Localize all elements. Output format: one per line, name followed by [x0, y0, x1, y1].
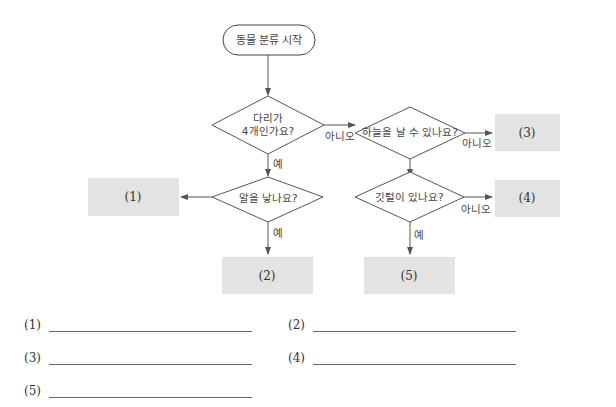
- edge-no-feathers: 아니오: [461, 201, 491, 216]
- edge-yes-legs: 예: [273, 156, 283, 171]
- answer-row-4[interactable]: (4): [288, 351, 516, 365]
- edge-no-fly: 아니오: [462, 135, 492, 150]
- result-box-5-label: (5): [401, 269, 418, 283]
- start-label: 동물 분류 시작: [236, 34, 303, 47]
- result-box-1-label: (1): [125, 190, 142, 204]
- edge-yes-eggs: 예: [273, 225, 283, 240]
- result-box-2-label: (2): [259, 269, 276, 283]
- answer-blank-4[interactable]: [313, 352, 516, 365]
- answer-label-2: (2): [288, 318, 305, 332]
- answer-label-4: (4): [288, 351, 305, 365]
- answer-blank-3[interactable]: [49, 352, 252, 365]
- result-box-3-label: (3): [519, 126, 536, 140]
- decision-legs-label: 다리가 4개인가요?: [242, 112, 294, 138]
- answer-blank-1[interactable]: [49, 319, 252, 332]
- edge-yes-feathers: 예: [414, 227, 424, 242]
- answer-label-5: (5): [24, 384, 41, 398]
- answer-row-5[interactable]: (5): [24, 384, 252, 398]
- answer-blank-5[interactable]: [49, 385, 252, 398]
- answer-label-3: (3): [24, 351, 41, 365]
- answer-blank-2[interactable]: [313, 319, 516, 332]
- answer-row-2[interactable]: (2): [288, 318, 516, 332]
- edge-no-legs: 아니오: [325, 128, 355, 143]
- decision-eggs-label: 알을 낳나요?: [239, 192, 298, 205]
- decision-feathers-label: 깃털이 있나요?: [375, 191, 444, 204]
- answer-row-3[interactable]: (3): [24, 351, 252, 365]
- answer-label-1: (1): [24, 318, 41, 332]
- result-box-4-label: (4): [519, 191, 536, 205]
- answer-row-1[interactable]: (1): [24, 318, 252, 332]
- decision-fly-label: 하늘을 날 수 있나요?: [362, 126, 458, 139]
